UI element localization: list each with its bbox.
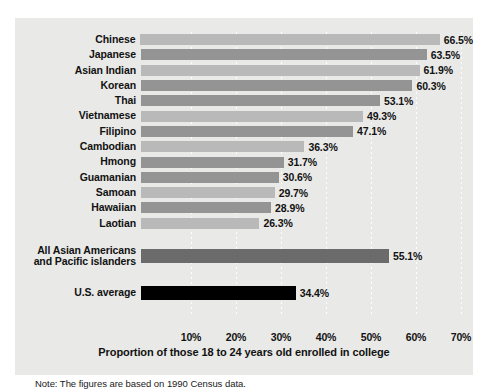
- bar-label: Hmong: [15, 156, 141, 167]
- bar-value: 28.9%: [275, 202, 304, 214]
- bar-row: Samoan 29.7%: [15, 185, 473, 200]
- bar-label: Laotian: [15, 218, 141, 229]
- bar-label: Samoan: [15, 187, 141, 198]
- x-tick-20: 20%: [226, 331, 247, 343]
- bar-row: Guamanian 30.6%: [15, 170, 473, 185]
- bar-hawaiian: [141, 202, 271, 213]
- bar-track: 36.3%: [141, 139, 473, 154]
- bar-vietnamese: [141, 111, 363, 122]
- row-spacer: [15, 231, 473, 241]
- bar-track: 63.5%: [141, 47, 473, 62]
- bar-filipino: [141, 126, 353, 137]
- row-spacer: [15, 271, 473, 278]
- bar-laotian: [141, 218, 259, 229]
- chart-panel: Chinese 66.5% Japanese 63.5% Asian India…: [15, 18, 473, 375]
- bar-value: 66.5%: [444, 34, 473, 46]
- bar-label: Vietnamese: [15, 110, 141, 121]
- bar-japanese: [141, 49, 427, 60]
- x-tick-10: 10%: [181, 331, 202, 343]
- bar-value: 49.3%: [367, 110, 396, 122]
- x-axis-ticks: 10% 20% 30% 40% 50% 60% 70%: [146, 331, 473, 345]
- bar-value: 55.1%: [393, 250, 422, 262]
- bar-value: 30.6%: [283, 171, 312, 183]
- bar-korean: [141, 80, 412, 91]
- chart-note: Note: The figures are based on 1990 Cens…: [35, 378, 246, 389]
- bar-row: Japanese 63.5%: [15, 47, 473, 62]
- bar-label: Filipino: [15, 126, 141, 137]
- bar-track: 31.7%: [141, 154, 473, 169]
- bar-value: 31.7%: [288, 156, 317, 168]
- bar-row: Filipino 47.1%: [15, 124, 473, 139]
- bar-label: U.S. average: [15, 287, 141, 298]
- bar-row: Asian Indian 61.9%: [15, 63, 473, 78]
- bar-track: 29.7%: [141, 185, 473, 200]
- bar-row: Laotian 26.3%: [15, 216, 473, 231]
- bar-value: 34.4%: [300, 287, 329, 299]
- x-tick-50: 50%: [361, 331, 382, 343]
- bar-track: 49.3%: [141, 108, 473, 123]
- bar-value: 36.3%: [308, 141, 337, 153]
- bar-track: 60.3%: [141, 78, 473, 93]
- bar-label: Chinese: [15, 34, 140, 45]
- bar-value: 26.3%: [263, 217, 292, 229]
- bar-row: Hawaiian 28.9%: [15, 200, 473, 215]
- bar-track: 55.1%: [141, 241, 473, 271]
- bar-label: Guamanian: [15, 172, 141, 183]
- bar-cambodian: [141, 141, 304, 152]
- bar-chinese: [140, 34, 439, 45]
- bar-guamanian: [141, 172, 279, 183]
- bar-thai: [141, 95, 380, 106]
- bar-value: 63.5%: [431, 49, 460, 61]
- bar-row: Thai 53.1%: [15, 93, 473, 108]
- bar-row-summary: All Asian Americans and Pacific islander…: [15, 241, 473, 271]
- bar-track: 34.4%: [141, 278, 473, 308]
- bar-samoan: [141, 187, 275, 198]
- bar-track: 61.9%: [141, 63, 473, 78]
- bar-track: 26.3%: [141, 216, 473, 231]
- bar-value: 60.3%: [416, 80, 445, 92]
- bar-value: 29.7%: [279, 187, 308, 199]
- bar-track: 30.6%: [141, 170, 473, 185]
- bar-asian-indian: [141, 65, 420, 76]
- bar-track: 28.9%: [141, 200, 473, 215]
- bar-row: Vietnamese 49.3%: [15, 108, 473, 123]
- bar-value: 61.9%: [424, 64, 453, 76]
- x-axis-title: Proportion of those 18 to 24 years old e…: [15, 346, 473, 358]
- x-tick-30: 30%: [271, 331, 292, 343]
- x-tick-70: 70%: [451, 331, 472, 343]
- bar-us-average: [141, 286, 296, 300]
- bar-label: All Asian Americans and Pacific islander…: [15, 245, 141, 268]
- bar-row: Hmong 31.7%: [15, 154, 473, 169]
- bar-label: Japanese: [15, 49, 141, 60]
- bar-row-summary: U.S. average 34.4%: [15, 278, 473, 308]
- bar-hmong: [141, 157, 284, 168]
- bar-value: 47.1%: [357, 125, 386, 137]
- bar-label: Korean: [15, 80, 141, 91]
- bar-label: Hawaiian: [15, 202, 141, 213]
- bar-label: Cambodian: [15, 141, 141, 152]
- bar-rows: Chinese 66.5% Japanese 63.5% Asian India…: [15, 32, 473, 308]
- x-tick-40: 40%: [316, 331, 337, 343]
- x-tick-60: 60%: [406, 331, 427, 343]
- bar-label: Thai: [15, 95, 141, 106]
- bar-label: Asian Indian: [15, 65, 141, 76]
- bar-row: Cambodian 36.3%: [15, 139, 473, 154]
- bar-track: 66.5%: [140, 32, 473, 47]
- bar-row: Korean 60.3%: [15, 78, 473, 93]
- bar-track: 47.1%: [141, 124, 473, 139]
- bar-all-asian-americans: [141, 249, 389, 263]
- bar-value: 53.1%: [384, 95, 413, 107]
- bar-row: Chinese 66.5%: [15, 32, 473, 47]
- bar-track: 53.1%: [141, 93, 473, 108]
